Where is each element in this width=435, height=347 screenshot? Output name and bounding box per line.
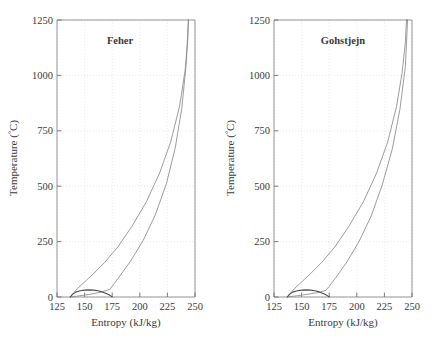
y-tick-label: 250 [254,236,270,247]
y-tick-label: 500 [254,181,270,192]
y-tick-label: 1250 [249,15,270,26]
chart-svg-gohstjejn: 0 250 500 750 1000 1250 125 150 175 200 … [217,0,434,347]
y-tick-label: 750 [37,125,53,136]
y-tick-label: 750 [254,125,270,136]
y-axis-label-prefix: Temperature ( [224,134,237,196]
x-axis-label: Entropy (kJ/kg) [308,316,378,329]
y-axis-label: Temperature (°C) [224,120,237,196]
plot-frame-gohstjejn [274,20,412,297]
panel-title: Feher [107,35,134,46]
x-tick-label: 125 [266,301,282,312]
x-tick-label: 200 [349,301,365,312]
x-tick-label: 225 [377,301,393,312]
y-tick-label: 1000 [32,70,53,81]
y-axis-ticks-feher [57,20,62,297]
x-tick-label: 125 [49,301,65,312]
series-cycle-lower-branch [70,20,188,297]
x-tick-label: 175 [104,301,120,312]
x-tick-label: 175 [321,301,337,312]
y-axis-label-suffix: C) [7,120,20,131]
panel-title: Gohstjejn [321,35,365,46]
chart-svg-feher: 0 250 500 750 1000 1250 125 150 175 200 … [0,0,217,347]
x-tick-label: 225 [160,301,176,312]
x-tick-label: 150 [77,301,93,312]
figure-container: 0 250 500 750 1000 1250 125 150 175 200 … [0,0,435,347]
x-tick-label: 250 [404,301,420,312]
y-tick-label: 1250 [32,15,53,26]
x-axis-label: Entropy (kJ/kg) [91,316,161,329]
series-cycle-lower-branch [287,20,407,297]
x-tick-label: 200 [132,301,148,312]
x-tick-label: 150 [294,301,310,312]
series-cycle-upper-branch [70,20,188,297]
y-axis-label-suffix: C) [224,120,237,131]
series-cycle-upper-branch [287,20,406,297]
y-tick-label: 500 [37,181,53,192]
y-axis-ticks-gohstjejn [274,20,279,297]
chart-panel-feher: 0 250 500 750 1000 1250 125 150 175 200 … [0,0,217,347]
gridlines-gohstjejn [274,20,412,297]
y-tick-label: 250 [37,236,53,247]
data-curves-feher [70,20,188,297]
y-axis-label-prefix: Temperature ( [7,134,20,196]
x-tick-label: 250 [187,301,203,312]
gridlines-feher [57,20,195,297]
y-tick-label: 1000 [249,70,270,81]
plot-frame-feher [57,20,195,297]
data-curves-gohstjejn [287,20,407,297]
y-axis-label: Temperature (°C) [7,120,20,196]
chart-panel-gohstjejn: 0 250 500 750 1000 1250 125 150 175 200 … [217,0,434,347]
